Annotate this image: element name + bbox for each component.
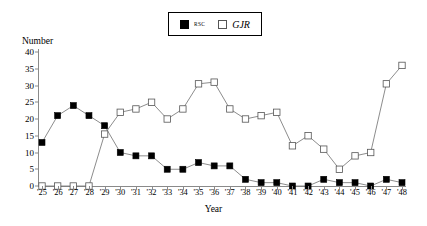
x-axis-tick-mark <box>402 186 403 190</box>
x-axis-tick-mark <box>42 186 43 190</box>
data-point-marker <box>336 180 342 186</box>
data-point-marker <box>289 143 295 149</box>
x-axis-tick-mark <box>386 186 387 190</box>
x-axis-tick-mark <box>292 186 293 190</box>
y-axis-tick-mark <box>35 186 38 187</box>
x-axis-tick-mark <box>339 186 340 190</box>
y-axis-tick-mark <box>35 68 38 69</box>
data-point-marker <box>55 113 61 119</box>
data-point-marker <box>383 176 389 182</box>
chart-container: RSC GJR Number Year 0510152025303540'25'… <box>0 0 427 226</box>
x-axis-title: Year <box>0 204 427 214</box>
x-axis-tick-mark <box>152 186 153 190</box>
x-axis-tick-mark <box>167 186 168 190</box>
x-axis-tick-mark <box>105 186 106 190</box>
y-axis-tick-label: 5 <box>30 165 35 174</box>
y-axis-tick-mark <box>35 85 38 86</box>
x-axis-tick-mark <box>230 186 231 190</box>
legend-label-gjr: GJR <box>232 19 250 30</box>
data-point-marker <box>258 112 264 118</box>
x-axis-tick-mark <box>89 186 90 190</box>
data-point-marker <box>211 79 217 85</box>
y-axis-tick-label: 0 <box>30 182 35 191</box>
data-point-marker <box>227 106 233 112</box>
y-axis-tick-mark <box>35 52 38 53</box>
series-line <box>42 65 402 186</box>
data-point-marker <box>258 180 264 186</box>
data-point-marker <box>242 176 248 182</box>
y-axis-tick-label: 35 <box>25 64 34 73</box>
y-axis-tick-label: 25 <box>25 98 34 107</box>
x-axis-tick-mark <box>277 186 278 190</box>
x-axis-tick-mark <box>136 186 137 190</box>
data-point-marker <box>39 139 45 145</box>
data-point-marker <box>180 166 186 172</box>
y-axis-tick-mark <box>35 135 38 136</box>
data-point-marker <box>211 163 217 169</box>
series-gjr <box>39 62 405 189</box>
data-point-marker <box>164 116 170 122</box>
x-axis-tick-mark <box>183 186 184 190</box>
y-axis-tick-label: 10 <box>25 148 34 157</box>
data-point-marker <box>227 163 233 169</box>
legend-item-rsc: RSC <box>180 20 205 29</box>
series-line <box>42 106 402 186</box>
y-axis-tick-mark <box>35 119 38 120</box>
data-point-marker <box>242 116 248 122</box>
filled-square-marker-icon <box>180 20 189 29</box>
plot-area: 0510152025303540'25'26'27'28'29'30'31'32… <box>38 52 406 186</box>
data-point-marker <box>367 149 373 155</box>
y-axis-title: Number <box>22 36 53 46</box>
data-point-marker <box>352 153 358 159</box>
data-point-marker <box>274 109 280 115</box>
x-axis-tick-mark <box>371 186 372 190</box>
data-point-marker <box>196 160 202 166</box>
x-axis-line <box>38 186 406 187</box>
data-point-marker <box>149 153 155 159</box>
open-square-marker-icon <box>218 20 227 29</box>
y-axis-tick-mark <box>35 169 38 170</box>
data-point-marker <box>274 180 280 186</box>
y-axis-tick-label: 15 <box>25 131 34 140</box>
data-point-marker <box>133 153 139 159</box>
data-point-marker <box>399 62 405 68</box>
data-point-marker <box>148 99 154 105</box>
legend-item-gjr: GJR <box>218 19 250 30</box>
data-point-marker <box>70 103 76 109</box>
x-axis-tick-mark <box>261 186 262 190</box>
y-axis-tick-label: 40 <box>25 48 34 57</box>
data-point-marker <box>133 106 139 112</box>
data-point-marker <box>180 106 186 112</box>
y-axis-tick-label: 30 <box>25 81 34 90</box>
data-point-marker <box>102 123 108 129</box>
chart-legend: RSC GJR <box>168 12 262 36</box>
series-canvas <box>38 52 406 186</box>
y-axis-tick-label: 20 <box>25 115 34 124</box>
data-point-marker <box>336 166 342 172</box>
x-axis-tick-mark <box>324 186 325 190</box>
x-axis-tick-mark <box>73 186 74 190</box>
y-axis-tick-mark <box>35 152 38 153</box>
x-axis-tick-mark <box>199 186 200 190</box>
data-point-marker <box>101 131 107 137</box>
legend-label-rsc: RSC <box>194 21 205 27</box>
data-point-marker <box>383 81 389 87</box>
data-point-marker <box>195 81 201 87</box>
data-point-marker <box>352 180 358 186</box>
data-point-marker <box>117 109 123 115</box>
series-rsc <box>39 103 405 189</box>
data-point-marker <box>117 150 123 156</box>
data-point-marker <box>321 176 327 182</box>
data-point-marker <box>86 113 92 119</box>
y-axis-tick-mark <box>35 102 38 103</box>
x-axis-tick-mark <box>355 186 356 190</box>
data-point-marker <box>321 146 327 152</box>
x-axis-tick-mark <box>120 186 121 190</box>
x-axis-tick-mark <box>245 186 246 190</box>
data-point-marker <box>164 166 170 172</box>
data-point-marker <box>305 133 311 139</box>
x-axis-tick-mark <box>58 186 59 190</box>
x-axis-tick-mark <box>308 186 309 190</box>
x-axis-tick-mark <box>214 186 215 190</box>
data-point-marker <box>399 180 405 186</box>
